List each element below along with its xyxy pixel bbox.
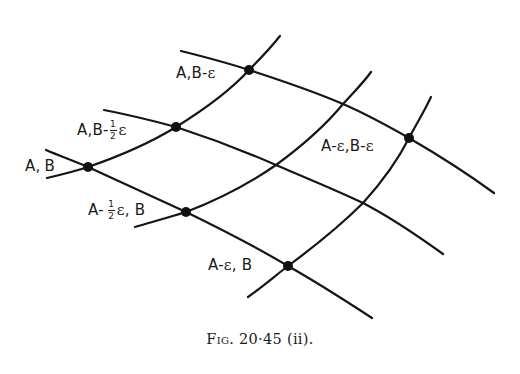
label-prefix: A- <box>208 258 224 273</box>
label-a-b-a: A <box>25 159 35 174</box>
fraction-denominator: 2 <box>110 132 116 141</box>
label-a-b-sep: , <box>35 159 40 174</box>
curve-constant-b-minus-half-eps <box>104 110 443 254</box>
label-prefix: A,B- <box>176 66 208 81</box>
point-a-b <box>83 162 93 172</box>
point-a-minus-eps-b <box>283 261 293 271</box>
point-a-b-minus-eps <box>244 65 254 75</box>
curve-constant-b <box>46 150 372 318</box>
label-a-b-b: B <box>44 159 55 174</box>
curvilinear-grid <box>0 0 520 374</box>
label-prefix: A- <box>88 203 104 218</box>
epsilon-symbol: ε <box>119 123 127 138</box>
epsilon-symbol: ε <box>117 203 125 218</box>
curve-constant-a <box>47 36 280 178</box>
label-a-b-minus-eps: A,B-ε <box>176 66 216 81</box>
curve-constant-a-minus-eps <box>248 97 431 297</box>
epsilon-symbol: ε <box>366 139 374 154</box>
label-mid: ,B- <box>345 139 366 154</box>
point-a-minus-half-eps-b <box>181 207 191 217</box>
label-suffix: , B <box>232 258 252 273</box>
fraction-half: 1 2 <box>108 200 115 221</box>
fraction-numerator: 1 <box>110 120 116 129</box>
label-prefix: A- <box>321 139 337 154</box>
point-a-minus-eps-b-minus-eps <box>404 133 414 143</box>
epsilon-symbol: ε <box>224 258 232 273</box>
epsilon-symbol: ε <box>337 139 345 154</box>
label-a-minus-eps-b-minus-eps: A-ε,B-ε <box>321 139 374 154</box>
fraction-numerator: 1 <box>108 200 114 209</box>
label-a-minus-eps-b: A-ε, B <box>208 258 252 273</box>
label-a-minus-half-eps-b: A- 1 2 ε, B <box>88 200 145 221</box>
point-a-b-minus-half-eps <box>171 122 181 132</box>
curve-constant-b-minus-eps <box>181 51 494 193</box>
caption-prefix: Fig. <box>206 331 234 347</box>
fraction-denominator: 2 <box>108 212 114 221</box>
label-prefix: A,B- <box>77 123 109 138</box>
label-suffix: , B <box>125 203 145 218</box>
caption-number: 20·45 (ii). <box>239 331 314 347</box>
label-a-b-minus-half-eps: A,B- 1 2 ε <box>77 120 127 141</box>
label-a-b: A,B <box>25 159 55 174</box>
epsilon-symbol: ε <box>208 66 216 81</box>
figure-caption: Fig. 20·45 (ii). <box>0 331 520 347</box>
coordinate-grid-figure: A,B A,B- 1 2 ε A,B-ε A- 1 2 ε, B A-ε, B … <box>0 0 520 374</box>
fraction-half: 1 2 <box>110 120 117 141</box>
